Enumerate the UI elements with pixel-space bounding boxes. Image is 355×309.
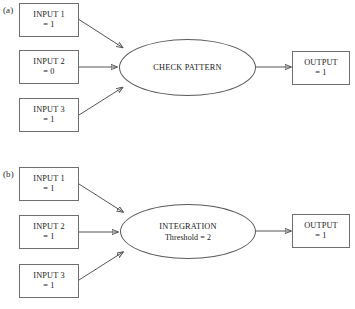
panel-a-input-2-value: = 0 xyxy=(43,67,54,78)
panel-a-input-1-value: = 1 xyxy=(43,20,54,31)
arrow-a-input3-to-process xyxy=(79,88,123,116)
panel-b-input-1-box: INPUT 1 = 1 xyxy=(19,167,79,201)
panel-b-process-ellipse: INTEGRATION Threshold = 2 xyxy=(120,204,256,259)
panel-a-output-name: OUTPUT xyxy=(304,58,338,69)
panel-a-input-2-box: INPUT 2 = 0 xyxy=(19,50,79,84)
panel-b-input-1-value: = 1 xyxy=(43,184,54,195)
panel-b-output-box: OUTPUT = 1 xyxy=(292,214,350,248)
panel-b-process-subtitle: Threshold = 2 xyxy=(165,232,211,243)
panel-b-input-1-name: INPUT 1 xyxy=(33,174,65,185)
panel-b-output-name: OUTPUT xyxy=(304,221,338,232)
arrow-b-input1-to-process xyxy=(79,184,123,212)
diagram-canvas: (a) INPUT 1 = 1 INPUT 2 = 0 INPUT 3 = 1 … xyxy=(0,0,355,309)
panel-b-input-2-name: INPUT 2 xyxy=(33,222,65,233)
panel-label-a: (a) xyxy=(3,5,13,15)
panel-a-input-3-name: INPUT 3 xyxy=(33,105,65,116)
panel-a-output-value: = 1 xyxy=(315,68,326,79)
panel-b-input-2-value: = 1 xyxy=(43,232,54,243)
panel-b-input-2-box: INPUT 2 = 1 xyxy=(19,215,79,249)
panel-a-process-title: CHECK PATTERN xyxy=(153,62,221,73)
panel-b-input-3-value: = 1 xyxy=(43,281,54,292)
panel-label-b: (b) xyxy=(3,169,14,179)
panel-a-input-1-name: INPUT 1 xyxy=(33,10,65,21)
panel-a-output-box: OUTPUT = 1 xyxy=(292,51,350,85)
arrow-b-input3-to-process xyxy=(79,252,123,280)
panel-a-process-ellipse: CHECK PATTERN xyxy=(119,39,256,96)
panel-a-input-1-box: INPUT 1 = 1 xyxy=(19,3,79,37)
panel-b-input-3-box: INPUT 3 = 1 xyxy=(19,264,79,298)
panel-b-process-title: INTEGRATION xyxy=(159,221,217,232)
panel-b-input-3-name: INPUT 3 xyxy=(33,271,65,282)
arrow-a-input1-to-process xyxy=(79,20,123,48)
panel-a-input-2-name: INPUT 2 xyxy=(33,57,65,68)
panel-a-input-3-box: INPUT 3 = 1 xyxy=(19,98,79,132)
panel-b-output-value: = 1 xyxy=(315,231,326,242)
panel-a-input-3-value: = 1 xyxy=(43,115,54,126)
